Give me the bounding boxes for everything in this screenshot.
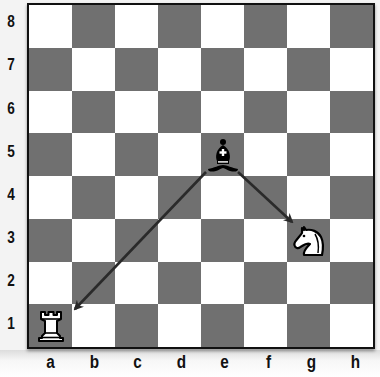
square-f3[interactable] (244, 219, 287, 262)
square-g6[interactable] (287, 91, 330, 134)
file-label-e: e (206, 352, 243, 373)
square-f1[interactable] (244, 304, 287, 347)
square-a3[interactable] (29, 219, 72, 262)
square-b7[interactable] (72, 48, 115, 91)
square-a1[interactable] (29, 304, 72, 347)
square-g5[interactable] (287, 133, 330, 176)
square-a7[interactable] (29, 48, 72, 91)
square-h6[interactable] (330, 91, 373, 134)
square-d8[interactable] (158, 5, 201, 48)
square-d3[interactable] (158, 219, 201, 262)
square-d7[interactable] (158, 48, 201, 91)
square-h8[interactable] (330, 5, 373, 48)
square-c7[interactable] (115, 48, 158, 91)
square-c4[interactable] (115, 176, 158, 219)
rank-label-3: 3 (2, 228, 20, 248)
square-f6[interactable] (244, 91, 287, 134)
square-b4[interactable] (72, 176, 115, 219)
square-c1[interactable] (115, 304, 158, 347)
rank-label-4: 4 (2, 185, 20, 205)
square-e7[interactable] (201, 48, 244, 91)
square-e5[interactable] (201, 133, 244, 176)
square-e8[interactable] (201, 5, 244, 48)
rank-label-2: 2 (2, 271, 20, 291)
square-f8[interactable] (244, 5, 287, 48)
square-h2[interactable] (330, 262, 373, 305)
square-g7[interactable] (287, 48, 330, 91)
file-label-b: b (76, 352, 113, 373)
square-f2[interactable] (244, 262, 287, 305)
square-a5[interactable] (29, 133, 72, 176)
square-e4[interactable] (201, 176, 244, 219)
square-c6[interactable] (115, 91, 158, 134)
rank-label-7: 7 (2, 55, 20, 75)
white-rook-icon[interactable] (29, 304, 72, 347)
file-label-a: a (32, 352, 69, 373)
square-g3[interactable] (287, 219, 330, 262)
square-b1[interactable] (72, 304, 115, 347)
square-g1[interactable] (287, 304, 330, 347)
square-h5[interactable] (330, 133, 373, 176)
square-h1[interactable] (330, 304, 373, 347)
black-bishop-icon[interactable] (201, 133, 244, 176)
square-f5[interactable] (244, 133, 287, 176)
square-b2[interactable] (72, 262, 115, 305)
square-a8[interactable] (29, 5, 72, 48)
square-d1[interactable] (158, 304, 201, 347)
file-label-c: c (119, 352, 156, 373)
square-h7[interactable] (330, 48, 373, 91)
file-label-d: d (163, 352, 200, 373)
file-label-f: f (250, 352, 287, 373)
square-c5[interactable] (115, 133, 158, 176)
square-h3[interactable] (330, 219, 373, 262)
square-e1[interactable] (201, 304, 244, 347)
square-a4[interactable] (29, 176, 72, 219)
square-f7[interactable] (244, 48, 287, 91)
square-d4[interactable] (158, 176, 201, 219)
square-b5[interactable] (72, 133, 115, 176)
square-g2[interactable] (287, 262, 330, 305)
square-b3[interactable] (72, 219, 115, 262)
rank-label-5: 5 (2, 142, 20, 162)
white-knight-icon[interactable] (287, 219, 330, 262)
square-c8[interactable] (115, 5, 158, 48)
square-d2[interactable] (158, 262, 201, 305)
square-h4[interactable] (330, 176, 373, 219)
rank-label-8: 8 (2, 12, 20, 32)
file-label-h: h (337, 352, 374, 373)
square-b6[interactable] (72, 91, 115, 134)
file-label-g: g (293, 352, 330, 373)
chessboard (27, 3, 375, 349)
square-c3[interactable] (115, 219, 158, 262)
rank-label-6: 6 (2, 99, 20, 119)
square-c2[interactable] (115, 262, 158, 305)
square-d5[interactable] (158, 133, 201, 176)
square-e6[interactable] (201, 91, 244, 134)
square-e2[interactable] (201, 262, 244, 305)
square-a6[interactable] (29, 91, 72, 134)
square-a2[interactable] (29, 262, 72, 305)
square-f4[interactable] (244, 176, 287, 219)
rank-label-1: 1 (2, 314, 20, 334)
square-b8[interactable] (72, 5, 115, 48)
square-g4[interactable] (287, 176, 330, 219)
square-g8[interactable] (287, 5, 330, 48)
square-e3[interactable] (201, 219, 244, 262)
square-d6[interactable] (158, 91, 201, 134)
